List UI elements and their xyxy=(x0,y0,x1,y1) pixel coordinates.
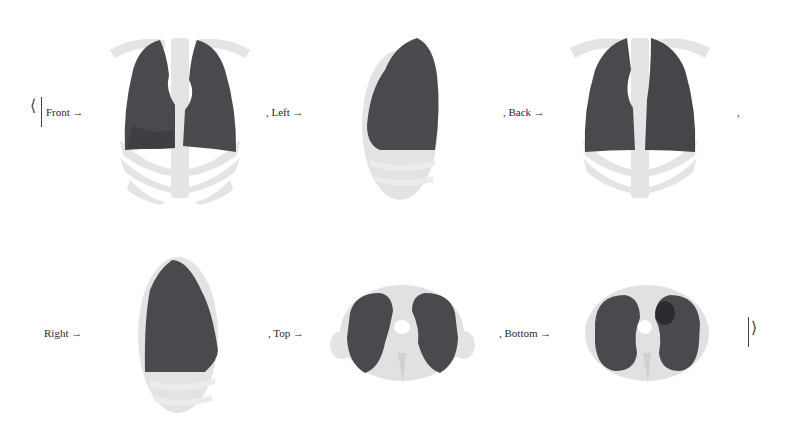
lung-right-view xyxy=(130,250,230,425)
lung-front-view xyxy=(105,30,255,205)
trailing-comma: , xyxy=(737,106,740,118)
key-right-label: Right → xyxy=(44,327,82,339)
key-top-label: , Top → xyxy=(268,327,304,339)
association-open-bracket: ⟨ xyxy=(30,96,36,115)
lung-left-view xyxy=(355,30,450,205)
association-close-bar xyxy=(748,317,749,347)
key-back-label: , Back → xyxy=(503,106,545,118)
association-close-bracket: ⟩ xyxy=(751,318,757,337)
lung-back-view xyxy=(565,30,715,205)
lung-top-view xyxy=(330,283,475,393)
key-bottom-label: , Bottom → xyxy=(499,327,551,339)
lung-bottom-view xyxy=(575,283,720,393)
association-open-bar xyxy=(41,97,42,127)
key-front-label: Front → xyxy=(46,106,84,118)
key-left-label: , Left → xyxy=(266,106,304,118)
